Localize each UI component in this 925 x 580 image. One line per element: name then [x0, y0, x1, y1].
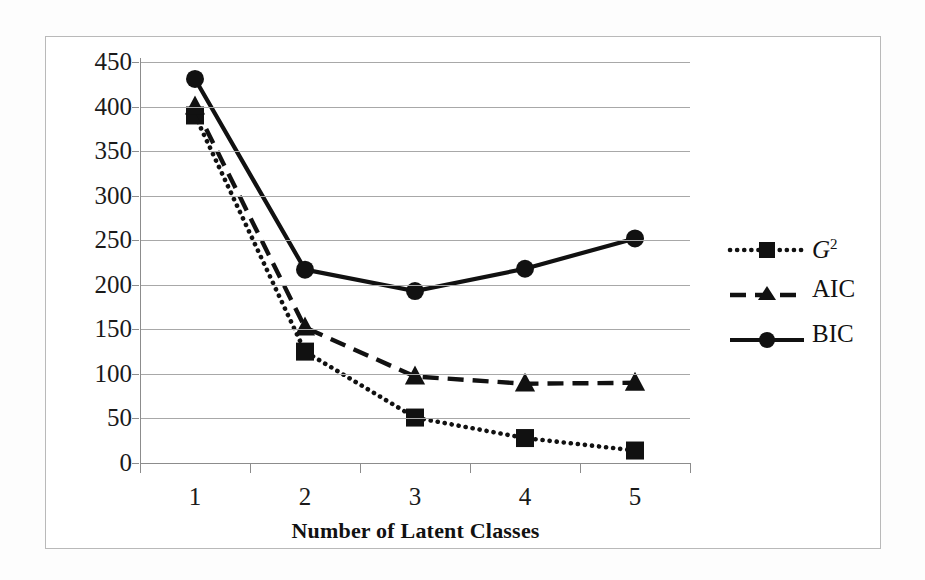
x-tick-label: 4 — [495, 484, 555, 510]
gridline — [140, 374, 690, 375]
gridline — [140, 107, 690, 108]
gridline — [140, 329, 690, 330]
x-tick-mark — [690, 464, 691, 473]
y-axis-line — [140, 58, 141, 468]
gridline — [140, 196, 690, 197]
series-line — [195, 107, 635, 384]
y-tick-mark — [132, 285, 139, 286]
data-point-marker — [516, 260, 534, 278]
legend-item-BIC[interactable]: BIC — [728, 318, 868, 363]
y-tick-label: 450 — [48, 49, 132, 74]
y-tick-label: 400 — [48, 94, 132, 119]
figure-container: 050100150200250300350400450 12345 Number… — [0, 0, 925, 580]
y-axis-labels: 050100150200250300350400450 — [44, 62, 132, 463]
y-tick-mark — [132, 62, 139, 63]
legend-label: AIC — [812, 275, 855, 303]
x-tick-mark — [360, 464, 361, 473]
y-tick-mark — [132, 151, 139, 152]
series-BIC — [186, 70, 644, 300]
y-tick-label: 50 — [48, 405, 132, 430]
data-point-marker — [626, 442, 644, 460]
data-point-marker — [626, 229, 644, 247]
legend-label: G2 — [812, 230, 838, 264]
legend-item-G2[interactable]: G2 — [728, 228, 868, 273]
y-tick-label: 200 — [48, 272, 132, 297]
legend-swatch-square-icon — [728, 242, 806, 258]
y-tick-mark — [132, 240, 139, 241]
x-tick-label: 2 — [275, 484, 335, 510]
gridline — [140, 418, 690, 419]
y-tick-label: 350 — [48, 138, 132, 163]
x-tick-label: 5 — [605, 484, 665, 510]
x-tick-label: 1 — [165, 484, 225, 510]
y-tick-label: 0 — [48, 450, 132, 475]
legend-item-AIC[interactable]: AIC — [728, 273, 868, 318]
y-tick-mark — [132, 107, 139, 108]
data-point-marker — [295, 317, 315, 336]
y-tick-label: 250 — [48, 227, 132, 252]
y-tick-mark — [132, 196, 139, 197]
data-point-marker — [296, 261, 314, 279]
x-tick-mark — [250, 464, 251, 473]
data-point-marker — [185, 96, 205, 115]
data-point-marker — [186, 70, 204, 88]
series-layer — [140, 62, 690, 463]
gridline — [140, 62, 690, 63]
x-tick-label: 3 — [385, 484, 445, 510]
x-axis-title: Number of Latent Classes — [140, 518, 691, 544]
x-tick-mark — [580, 464, 581, 473]
y-tick-label: 100 — [48, 361, 132, 386]
gridline — [140, 240, 690, 241]
gridline — [140, 285, 690, 286]
gridline — [140, 151, 690, 152]
chart-legend: G2AICBIC — [728, 228, 868, 363]
y-tick-label: 150 — [48, 316, 132, 341]
y-tick-mark — [132, 418, 139, 419]
data-point-marker — [516, 429, 534, 447]
plot-area — [140, 62, 690, 463]
x-tick-mark — [140, 464, 141, 473]
legend-swatch-circle-icon — [728, 332, 806, 348]
legend-swatch-triangle-icon — [728, 287, 806, 303]
y-tick-mark — [132, 463, 139, 464]
x-tick-mark — [470, 464, 471, 473]
data-point-marker — [296, 343, 314, 361]
legend-label: BIC — [812, 320, 854, 348]
y-tick-mark — [132, 329, 139, 330]
x-axis-line — [140, 463, 691, 464]
y-tick-label: 300 — [48, 183, 132, 208]
y-tick-mark — [132, 374, 139, 375]
